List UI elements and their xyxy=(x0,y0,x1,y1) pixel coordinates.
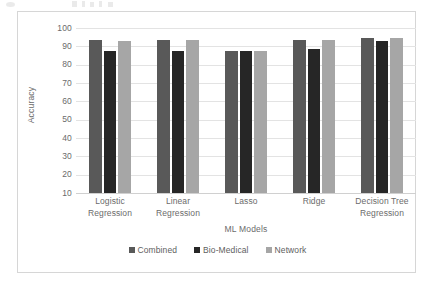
bar xyxy=(361,38,374,193)
legend-swatch-icon xyxy=(266,247,272,253)
x-tick-label-line: Ridge xyxy=(280,196,348,208)
x-tick-label: LinearRegression xyxy=(144,196,212,219)
bar-group xyxy=(144,28,212,193)
bar xyxy=(308,49,321,193)
legend-swatch-icon xyxy=(129,247,135,253)
bar xyxy=(254,51,267,193)
chart-container: 100908070605040302010 Accuracy LogisticR… xyxy=(17,11,416,273)
x-tick-label-line: Lasso xyxy=(212,196,280,208)
y-tick-label-80: 80 xyxy=(32,60,72,69)
bar xyxy=(89,40,102,193)
x-tick-label-line: Logistic xyxy=(76,196,144,208)
y-tick-label-50: 50 xyxy=(32,115,72,124)
x-tick-label: Decision TreeRegression xyxy=(348,196,416,219)
bar xyxy=(104,51,117,193)
legend-label: Combined xyxy=(138,245,178,255)
legend-item[interactable]: Combined xyxy=(129,245,178,255)
page-scan-artifacts xyxy=(0,0,433,10)
x-tick-label-line: Linear xyxy=(144,196,212,208)
plot-area xyxy=(76,28,416,193)
legend-item[interactable]: Bio-Medical xyxy=(194,245,249,255)
x-tick-label: Ridge xyxy=(280,196,348,208)
bar-group xyxy=(280,28,348,193)
bar xyxy=(322,40,335,193)
bar xyxy=(293,40,306,193)
bar xyxy=(240,51,253,193)
bar xyxy=(186,40,199,193)
x-axis-title: ML Models xyxy=(76,224,416,234)
x-tick-label-line: Decision Tree xyxy=(348,196,416,208)
bar-group xyxy=(76,28,144,193)
x-tick-label-line: Regression xyxy=(348,208,416,220)
y-tick-label-20: 20 xyxy=(32,170,72,179)
y-tick-label-70: 70 xyxy=(32,79,72,88)
x-tick-label-line: Regression xyxy=(76,208,144,220)
bar xyxy=(172,51,185,193)
x-tick-label: Lasso xyxy=(212,196,280,208)
bar xyxy=(225,51,238,193)
y-tick-label-60: 60 xyxy=(32,97,72,106)
bar-group xyxy=(348,28,416,193)
y-tick-label-10: 10 xyxy=(32,189,72,198)
bars-layer xyxy=(76,28,416,193)
bar xyxy=(390,38,403,193)
bar xyxy=(376,41,389,193)
x-tick-label-line: Regression xyxy=(144,208,212,220)
legend-swatch-icon xyxy=(194,247,200,253)
y-tick-label-30: 30 xyxy=(32,152,72,161)
y-tick-label-40: 40 xyxy=(32,134,72,143)
legend-item[interactable]: Network xyxy=(266,245,307,255)
bar xyxy=(118,41,131,193)
x-tick-label: LogisticRegression xyxy=(76,196,144,219)
y-tick-label-90: 90 xyxy=(32,42,72,51)
legend-label: Network xyxy=(275,245,307,255)
y-axis-tick-labels: 100908070605040302010 xyxy=(30,28,72,193)
bar-group xyxy=(212,28,280,193)
gridline-10 xyxy=(76,193,416,194)
legend-label: Bio-Medical xyxy=(203,245,249,255)
bar xyxy=(157,40,170,193)
y-axis-title: Accuracy xyxy=(26,65,36,145)
y-tick-label-100: 100 xyxy=(32,24,72,33)
chart-legend: CombinedBio-MedicalNetwork xyxy=(18,245,417,255)
